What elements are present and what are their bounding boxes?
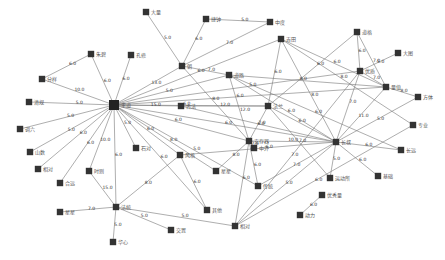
node-label: 量值 bbox=[391, 84, 401, 91]
graph-node[interactable] bbox=[27, 149, 33, 155]
edge-weight-label: 5.0 bbox=[181, 213, 188, 218]
graph-node[interactable] bbox=[86, 168, 92, 174]
graph-node[interactable] bbox=[57, 180, 63, 186]
edge-weight-label: 6.0 bbox=[243, 175, 250, 180]
graph-node[interactable] bbox=[395, 50, 401, 56]
graph-node[interactable] bbox=[267, 19, 273, 25]
edge-weight-label: 7.0 bbox=[373, 75, 380, 80]
edge-weight-label: 6.0 bbox=[87, 140, 94, 145]
edge-weight-label: 6.0 bbox=[123, 76, 130, 81]
edge-weight-label: 5.0 bbox=[193, 146, 200, 151]
graph-node[interactable] bbox=[383, 84, 389, 90]
edge-weight-label: 6.0 bbox=[315, 109, 322, 114]
graph-node[interactable] bbox=[357, 68, 363, 74]
node-label: 中外 bbox=[259, 145, 269, 152]
graph-node[interactable] bbox=[278, 36, 284, 42]
graph-node[interactable] bbox=[265, 103, 271, 109]
graph-node[interactable] bbox=[204, 207, 210, 213]
edge-weight-label: 8.0 bbox=[212, 96, 219, 101]
node-label: 王道 bbox=[121, 102, 131, 109]
graph-node[interactable] bbox=[128, 52, 134, 58]
graph-node[interactable] bbox=[415, 94, 421, 100]
edge-weight-label: 8.0 bbox=[400, 88, 407, 93]
edge-weight-label: 5.0 bbox=[377, 116, 384, 121]
network-graph: 6.06.010.05.05.05.06.06.010.05.06.013.05… bbox=[0, 0, 445, 260]
graph-node[interactable] bbox=[327, 175, 333, 181]
edge-weight-label: 6.0 bbox=[275, 69, 282, 74]
edge-weight-label: 7.0 bbox=[226, 40, 233, 45]
edge-weight-label: 6.0 bbox=[299, 118, 306, 123]
graph-node[interactable] bbox=[109, 100, 119, 110]
graph-edge bbox=[281, 39, 336, 142]
edge-weight-label: 7.0 bbox=[349, 99, 356, 104]
graph-node[interactable] bbox=[333, 139, 339, 145]
edge-weight-label: 6.0 bbox=[147, 126, 154, 131]
node-label: 山数 bbox=[35, 149, 45, 156]
graph-node[interactable] bbox=[177, 152, 183, 158]
graph-node[interactable] bbox=[232, 223, 238, 229]
node-label: 清规 bbox=[34, 99, 44, 106]
graph-node[interactable] bbox=[178, 103, 184, 109]
edge-weight-label: 5.0 bbox=[124, 120, 131, 125]
edge-weight-label: 8.0 bbox=[170, 137, 177, 142]
node-label: 大图 bbox=[403, 50, 413, 57]
edge-weight-label: 8.0 bbox=[311, 92, 318, 97]
node-label: 运动所 bbox=[335, 175, 350, 182]
edge-weight-label: 10.0 bbox=[100, 137, 110, 142]
graph-node[interactable] bbox=[319, 192, 325, 198]
edge-weight-label: 6.0 bbox=[359, 157, 366, 162]
node-label: 道路 bbox=[234, 72, 244, 79]
node-label: 长远 bbox=[406, 147, 416, 154]
edge-weight-label: 6.0 bbox=[254, 162, 261, 167]
graph-node[interactable] bbox=[375, 173, 381, 179]
edge-weight-label: 6.0 bbox=[288, 108, 295, 113]
edge-weight-label: 7.0 bbox=[293, 162, 300, 167]
edge-weight-label: 10.0 bbox=[74, 87, 84, 92]
node-label: 风格 bbox=[185, 152, 195, 159]
node-label: 优质 bbox=[365, 68, 375, 75]
node-label: 石对 bbox=[141, 145, 151, 152]
edge-weight-label: 5.0 bbox=[141, 213, 148, 218]
graph-node[interactable] bbox=[246, 138, 252, 144]
graph-node[interactable] bbox=[35, 166, 41, 172]
graph-node[interactable] bbox=[26, 99, 32, 105]
graph-node[interactable] bbox=[88, 51, 94, 57]
graph-node[interactable] bbox=[57, 209, 63, 215]
node-label: 孔修 bbox=[136, 52, 146, 59]
graph-node[interactable] bbox=[226, 72, 232, 78]
node-label: 分样 bbox=[47, 76, 57, 83]
node-label: 其他 bbox=[212, 207, 222, 214]
edge-weight-label: 6.0 bbox=[334, 59, 341, 64]
graph-node[interactable] bbox=[113, 204, 119, 210]
graph-node[interactable] bbox=[255, 183, 261, 189]
graph-node[interactable] bbox=[203, 16, 209, 22]
graph-node[interactable] bbox=[398, 147, 404, 153]
edge-weight-label: 6.0 bbox=[161, 154, 168, 159]
graph-node[interactable] bbox=[354, 29, 360, 35]
edge-weight-label: 5.0 bbox=[164, 35, 171, 40]
graph-edge bbox=[336, 142, 378, 176]
graph-node[interactable] bbox=[39, 76, 45, 82]
graph-node[interactable] bbox=[297, 212, 303, 218]
graph-node[interactable] bbox=[17, 126, 23, 132]
edge-weight-label: 5.0 bbox=[166, 88, 173, 93]
graph-node[interactable] bbox=[179, 63, 185, 69]
node-label: 长叔 bbox=[341, 139, 351, 146]
graph-node[interactable] bbox=[133, 145, 139, 151]
graph-node[interactable] bbox=[143, 9, 149, 15]
edge-weight-label: 6.0 bbox=[317, 61, 324, 66]
graph-node[interactable] bbox=[410, 122, 416, 128]
edge-weight-label: 5.0 bbox=[249, 82, 256, 87]
graph-node[interactable] bbox=[168, 227, 174, 233]
node-label: 专业 bbox=[418, 122, 428, 129]
node-label: 朱碧 bbox=[96, 51, 106, 58]
edge-weight-label: 13.0 bbox=[151, 80, 161, 85]
edge-label-layer: 6.06.010.05.05.05.06.06.010.05.06.013.05… bbox=[67, 17, 408, 228]
graph-node[interactable] bbox=[110, 239, 116, 245]
graph-node[interactable] bbox=[251, 145, 257, 151]
edge-weight-label: 15.0 bbox=[103, 185, 113, 190]
node-label: 朝 bbox=[187, 63, 192, 70]
graph-node[interactable] bbox=[213, 168, 219, 174]
edge-weight-label: 12.0 bbox=[220, 102, 230, 107]
edge-weight-label: 6.0 bbox=[115, 152, 122, 157]
